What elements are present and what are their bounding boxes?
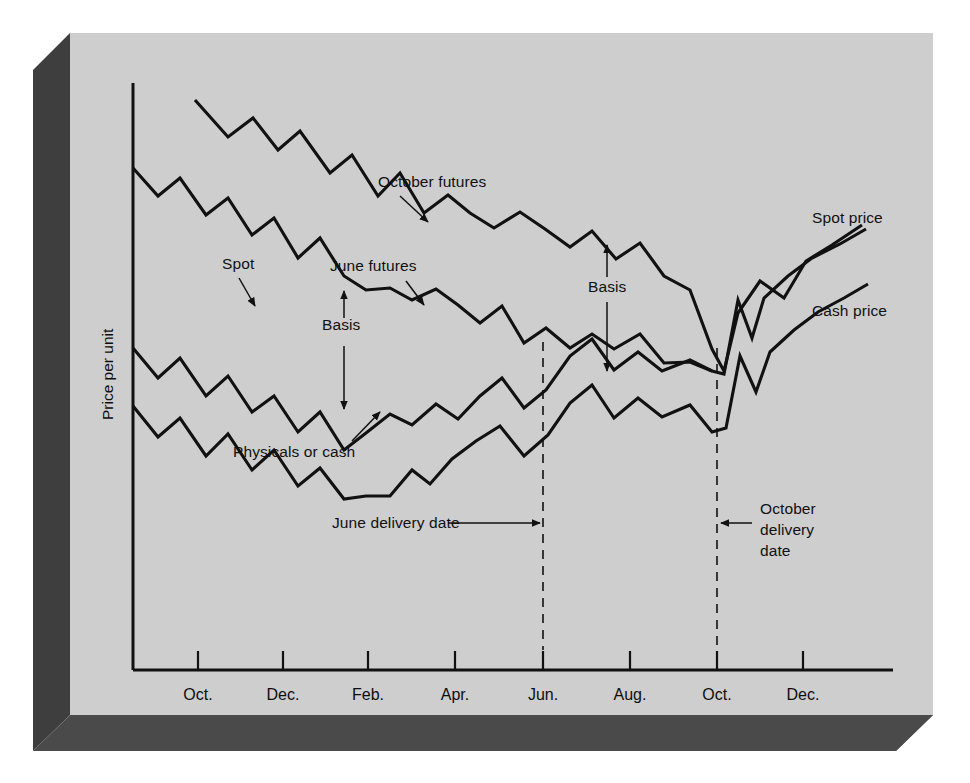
october-delivery-date-label-line2: delivery [760,521,814,538]
panel-shadow-bottom [33,715,933,751]
x-tick-label-5: Aug. [614,686,647,703]
x-tick-label-2: Feb. [352,686,384,703]
physicals-or-cash-label: Physicals or cash [233,443,355,460]
y-axis-title: Price per unit [99,328,116,420]
paper-grain [70,33,933,715]
october-delivery-date-label-line1: October [760,500,816,517]
basis-right-label: Basis [588,278,627,295]
spot-price-label: Spot price [812,209,883,226]
cash-price-label: Cash price [812,302,887,319]
figure-root: Oct.Dec.Feb.Apr.Jun.Aug.Oct.Dec. Price p… [0,0,970,783]
october-futures-label: October futures [378,173,486,190]
x-tick-label-6: Oct. [702,686,731,703]
basis-left-label: Basis [322,316,361,333]
x-tick-label-0: Oct. [183,686,212,703]
x-tick-label-4: Jun. [528,686,558,703]
spot-label: Spot [222,255,255,272]
x-tick-label-3: Apr. [441,686,469,703]
futures-basis-chart: Oct.Dec.Feb.Apr.Jun.Aug.Oct.Dec. Price p… [0,0,970,783]
june-futures-label: June futures [330,257,417,274]
panel-shadow-left [33,33,70,751]
october-delivery-date-label-line3: date [760,542,791,559]
x-tick-label-1: Dec. [267,686,300,703]
x-tick-label-7: Dec. [787,686,820,703]
june-delivery-date-label: June delivery date [332,514,460,531]
